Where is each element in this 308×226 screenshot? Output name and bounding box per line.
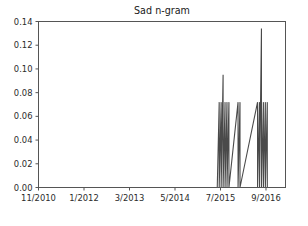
y-tick-label: 0.12 xyxy=(14,40,33,50)
y-tick-label: 0.04 xyxy=(14,135,33,145)
sad-ngram-chart: Sad n-gram 0.000.020.040.060.080.100.120… xyxy=(0,0,308,226)
y-tick-label: 0.00 xyxy=(14,183,33,193)
y-tick-label: 0.14 xyxy=(14,17,33,27)
x-tick-label: 5/2014 xyxy=(160,193,189,203)
y-tick-label: 0.10 xyxy=(14,64,33,74)
x-tick-label: 3/2013 xyxy=(115,193,144,203)
x-tick-label: 7/2015 xyxy=(206,193,235,203)
chart-title: Sad n-gram xyxy=(134,5,190,16)
x-tick-label: 11/2010 xyxy=(21,193,56,203)
y-tick-label: 0.06 xyxy=(14,111,33,121)
chart-figure: Sad n-gram 0.000.020.040.060.080.100.120… xyxy=(0,0,308,226)
y-tick-label: 0.08 xyxy=(14,88,33,98)
x-tick-label: 1/2012 xyxy=(69,193,98,203)
x-tick-label: 9/2016 xyxy=(251,193,280,203)
y-tick-label: 0.02 xyxy=(14,159,33,169)
